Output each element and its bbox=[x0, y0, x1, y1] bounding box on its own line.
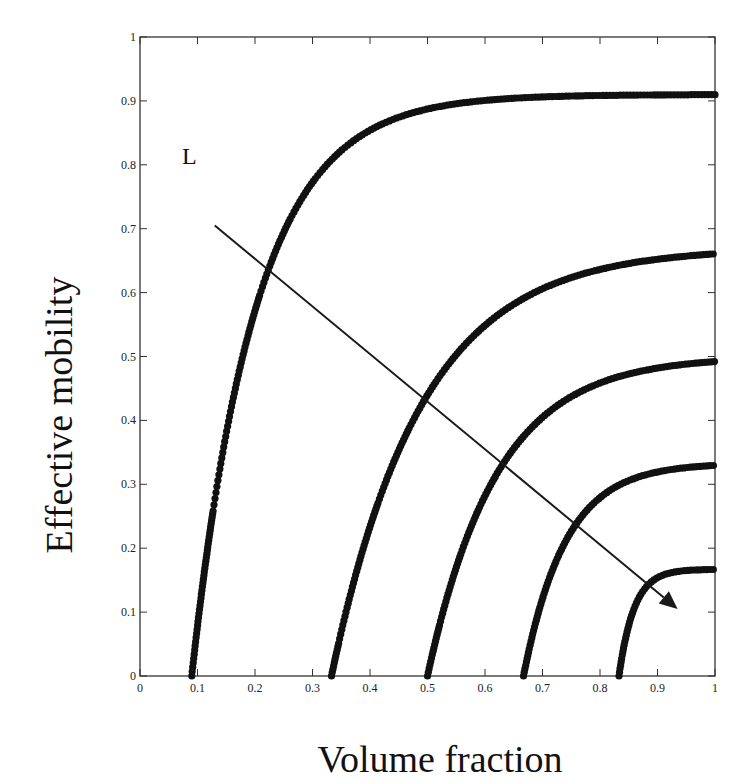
x-tick-label: 0 bbox=[137, 681, 143, 695]
y-tick-label: 0.8 bbox=[121, 158, 136, 172]
series-curve-5 bbox=[615, 566, 717, 680]
data-series bbox=[188, 91, 718, 680]
y-axis-title: Effective mobility bbox=[38, 277, 80, 554]
y-tick-label: 0.6 bbox=[121, 286, 136, 300]
data-point bbox=[710, 250, 717, 257]
x-tick-label: 0.9 bbox=[650, 681, 665, 695]
x-tick-label: 0.7 bbox=[535, 681, 550, 695]
data-point bbox=[210, 501, 217, 508]
data-point bbox=[710, 462, 717, 469]
data-point bbox=[210, 507, 217, 514]
series-curve-3 bbox=[424, 358, 718, 680]
x-tick-label: 0.1 bbox=[190, 681, 205, 695]
annotation-L: L bbox=[182, 143, 197, 169]
x-tick-label: 0.2 bbox=[248, 681, 263, 695]
x-tick-label: 1 bbox=[712, 681, 718, 695]
x-tick-label: 0.8 bbox=[593, 681, 608, 695]
y-tick-label: 0.4 bbox=[121, 413, 136, 427]
plot-frame bbox=[140, 37, 715, 676]
axis-ticks: 00.10.20.30.40.50.60.70.80.9100.10.20.30… bbox=[121, 30, 718, 695]
trend-arrow bbox=[215, 226, 678, 609]
x-tick-label: 0.4 bbox=[363, 681, 378, 695]
y-tick-label: 0.2 bbox=[121, 541, 136, 555]
y-tick-label: 0.7 bbox=[121, 222, 136, 236]
data-point bbox=[711, 91, 718, 98]
arrow-head-icon bbox=[659, 591, 678, 609]
arrow-shaft bbox=[215, 226, 664, 598]
data-point bbox=[211, 495, 218, 502]
plot-border bbox=[140, 37, 715, 676]
series-curve-2 bbox=[328, 250, 717, 679]
x-tick-label: 0.6 bbox=[478, 681, 493, 695]
y-tick-label: 1 bbox=[130, 30, 136, 44]
x-axis-title: Volume fraction bbox=[317, 738, 562, 780]
x-tick-label: 0.3 bbox=[305, 681, 320, 695]
x-tick-label: 0.5 bbox=[420, 681, 435, 695]
y-tick-label: 0.1 bbox=[121, 605, 136, 619]
data-point bbox=[710, 566, 717, 573]
y-tick-label: 0.3 bbox=[121, 477, 136, 491]
y-tick-label: 0.5 bbox=[121, 350, 136, 364]
y-tick-label: 0.9 bbox=[121, 94, 136, 108]
chart-canvas: 00.10.20.30.40.50.60.70.80.9100.10.20.30… bbox=[0, 0, 754, 783]
y-tick-label: 0 bbox=[130, 669, 136, 683]
data-point bbox=[711, 358, 718, 365]
